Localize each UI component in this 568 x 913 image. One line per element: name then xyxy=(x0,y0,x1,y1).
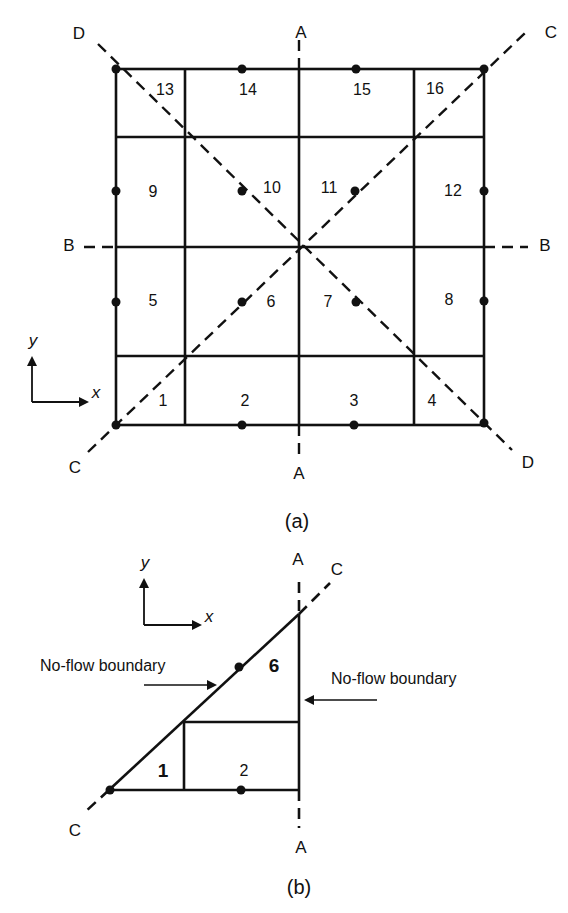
block-label: 6 xyxy=(269,658,280,674)
block-label: 16 xyxy=(426,81,444,97)
y-axis-label-b: y xyxy=(141,553,150,573)
caption-b: (b) xyxy=(287,876,311,899)
symmetry-label-c-top: C xyxy=(545,24,557,41)
block-label: 11 xyxy=(321,180,338,196)
symmetry-label-b-right: B xyxy=(539,237,550,254)
x-axis-label-b: x xyxy=(205,607,214,627)
symmetry-label-a-bottom: A xyxy=(295,839,306,856)
symmetry-label-a-top: A xyxy=(292,551,303,568)
block-label: 1 xyxy=(159,393,168,409)
x-axis-label-a: x xyxy=(92,383,101,403)
no-flow-boundary-label-left: No-flow boundary xyxy=(40,657,165,675)
symmetry-label-a-top: A xyxy=(295,24,306,41)
block-label: 8 xyxy=(445,292,454,308)
block-label: 12 xyxy=(444,183,462,199)
symmetry-label-d-bottom: D xyxy=(522,454,534,471)
axes-a xyxy=(27,356,89,407)
symmetry-label-c-bottom: C xyxy=(69,459,81,476)
caption-a: (a) xyxy=(285,510,309,533)
block-label: 1 xyxy=(158,763,169,779)
symmetry-label-b-left: B xyxy=(63,237,74,254)
diagram-canvas xyxy=(0,0,568,913)
symmetry-label-c-bottom: C xyxy=(69,822,81,839)
no-flow-boundary-label-right: No-flow boundary xyxy=(331,670,456,688)
block-label: 7 xyxy=(324,294,333,310)
block-label: 15 xyxy=(353,82,371,98)
block-label: 6 xyxy=(267,294,276,310)
block-label: 10 xyxy=(263,180,281,196)
y-axis-label-a: y xyxy=(29,331,38,351)
symmetry-label-d-top: D xyxy=(73,25,85,42)
block-label: 3 xyxy=(350,393,359,409)
block-label: 13 xyxy=(156,82,174,98)
block-label: 9 xyxy=(149,184,158,200)
block-label: 5 xyxy=(149,293,158,309)
block-label: 2 xyxy=(241,393,250,409)
block-label: 2 xyxy=(240,763,249,779)
block-label: 14 xyxy=(239,82,257,98)
symmetry-lines-a xyxy=(84,33,528,456)
block-label: 4 xyxy=(428,393,437,409)
symmetry-label-c-top: C xyxy=(331,561,343,578)
symmetry-label-a-bottom: A xyxy=(293,465,304,482)
axes-b xyxy=(139,578,202,630)
grid-b xyxy=(109,614,299,790)
